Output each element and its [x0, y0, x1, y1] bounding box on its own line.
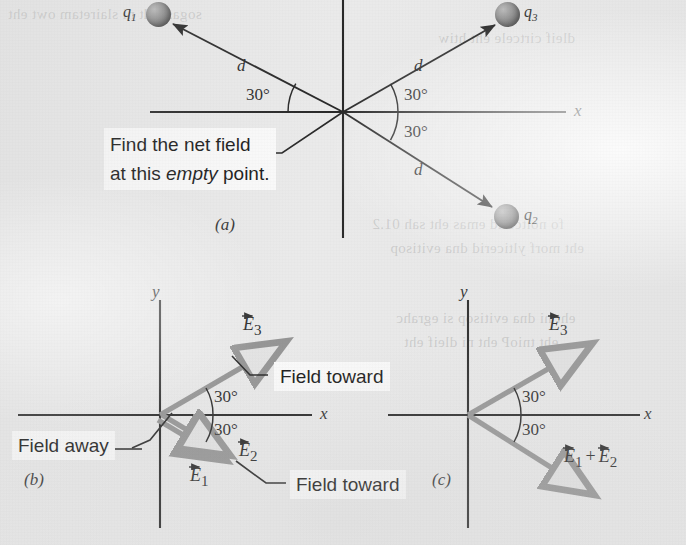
charge-label-q3: q3 — [524, 3, 538, 23]
panel-c-x-axis-label: x — [644, 404, 652, 424]
vector-arrow-icon — [242, 311, 255, 319]
panel-b-callout-field-away: Field away — [12, 431, 115, 460]
distance-label-d1: d — [237, 56, 246, 76]
vector-arrow-icon — [189, 462, 202, 470]
panel-a-callout-line-2: at this empty point. — [110, 159, 270, 188]
panel-b-label-E1: E1 — [190, 463, 209, 490]
panel-a-callout: Find the net field at this empty point. — [104, 128, 276, 190]
panel-a-x-axis-label: x — [574, 101, 582, 121]
distance-label-d3: d — [414, 56, 423, 76]
callout-line2-pre: at this — [110, 163, 166, 184]
charge-label-q1: q1 — [123, 3, 137, 23]
panel-b-angle-upper: 30° — [214, 387, 238, 407]
figure-page: sogas sidt ni slairetam owt eht dleif ci… — [0, 0, 686, 545]
charge-label-q2: q2 — [524, 206, 538, 226]
vector-arrow-icon — [598, 443, 611, 451]
panel-c-y-axis-label: y — [460, 282, 468, 302]
panel-b-x-axis-label: x — [320, 404, 328, 424]
panel-c-label: (c) — [432, 470, 451, 490]
panel-b-callout-field-toward-bottom: Field toward — [290, 470, 406, 499]
panel-b-callout-field-toward-top: Field toward — [274, 362, 390, 391]
panel-a-angle-lower-right: 30° — [404, 122, 428, 142]
panel-b-label: (b) — [24, 470, 44, 490]
callout-line2-post: point. — [218, 163, 270, 184]
panel-a-angle-upper-right: 30° — [404, 85, 428, 105]
panel-b-label-E2: E2 — [239, 438, 258, 465]
panel-c-axes — [388, 300, 640, 528]
panel-b-angle-lower: 30° — [214, 420, 238, 440]
panel-a-angle-left: 30° — [246, 85, 270, 105]
panel-c-angle-lower: 30° — [522, 420, 546, 440]
panel-c-label-E3: E3 — [549, 312, 568, 339]
callout-line2-emphasis: empty — [166, 163, 218, 184]
panel-c-label-E1-plus-E2: E1+ E2 — [564, 444, 617, 471]
vector-arrow-icon — [548, 311, 561, 319]
panel-a-axes — [150, 0, 566, 238]
panel-a-callout-line-1: Find the net field — [110, 130, 270, 159]
vector-arrow-icon — [563, 443, 576, 451]
distance-label-d2: d — [414, 160, 423, 180]
panel-c-angle-upper: 30° — [522, 387, 546, 407]
plus-sign: + — [583, 446, 599, 466]
vector-arrow-icon — [238, 437, 251, 445]
panel-b-label-E3: E3 — [243, 312, 262, 339]
charge-sphere-q1 — [146, 2, 171, 27]
charge-sphere-q3 — [495, 2, 520, 27]
panel-b-y-axis-label: y — [152, 282, 160, 302]
panel-a-label: (a) — [215, 215, 235, 235]
charge-sphere-q2 — [494, 204, 519, 229]
